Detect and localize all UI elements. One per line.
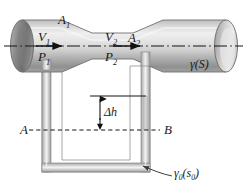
venturi-meter-figure: A1 V1 P1 V2 A2 P2 γ(S) Δh A B γ0(s0): [0, 0, 247, 190]
delta-h-arrow-down: [97, 124, 103, 130]
manometer-outer-outline: [42, 66, 150, 172]
label-pressure-inlet: P1: [38, 50, 50, 67]
pressure-tap-2: [141, 52, 150, 66]
delta-h-dimension: [90, 96, 146, 130]
manometer-fluid-column: [143, 96, 148, 130]
label-specific-weight-manometer-fluid: γ0(s0): [174, 167, 199, 182]
u-tube-manometer: [42, 64, 150, 172]
label-area-throat: A2: [128, 31, 140, 48]
label-pressure-throat: P2: [105, 50, 117, 67]
pipe-right-bore-highlight: [220, 28, 235, 68]
label-datum-point-b: B: [164, 123, 172, 136]
label-velocity-throat: V2: [105, 30, 117, 47]
label-specific-weight-flowing-fluid: γ(S): [190, 58, 209, 70]
label-datum-point-a: A: [20, 123, 28, 136]
label-delta-h: Δh: [104, 106, 117, 118]
label-area-inlet: A1: [58, 13, 70, 30]
label-velocity-inlet: V1: [38, 30, 50, 47]
